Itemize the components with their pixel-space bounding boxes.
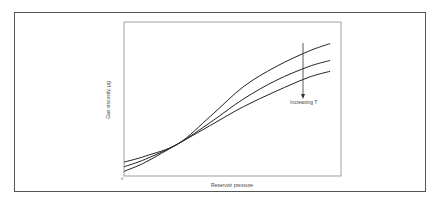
increasing-t-annotation: Increasing T (290, 99, 317, 105)
series-lines (124, 44, 330, 172)
x-axis-label: Reservoir pressure (211, 182, 253, 188)
chart-plot (0, 0, 442, 202)
origin-label: 0 (121, 176, 123, 181)
series-line-2 (124, 61, 330, 167)
series-line-3 (124, 71, 330, 171)
increasing-t-arrow-icon (301, 43, 305, 99)
y-axis-label: Gas viscosity, μg (105, 81, 111, 119)
